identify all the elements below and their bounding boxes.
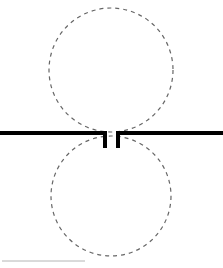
feynman-diagram — [0, 0, 223, 268]
upper-loop-dashed-circle — [49, 8, 173, 132]
lower-loop-dashed-circle — [51, 136, 171, 256]
figure-canvas — [0, 0, 223, 268]
